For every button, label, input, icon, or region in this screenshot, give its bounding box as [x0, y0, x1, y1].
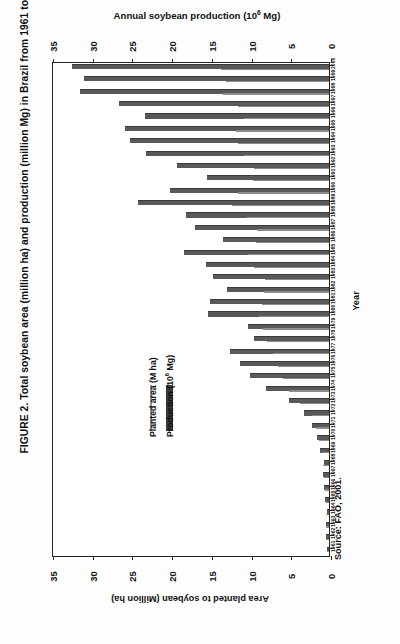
bottom-axis-tick-label: 35 [48, 565, 59, 589]
planted-area-bar [273, 353, 329, 354]
planted-area-bar [254, 168, 329, 169]
year-axis-tick-label: 1991 [330, 169, 336, 180]
planted-area-bar [325, 489, 329, 490]
planted-area-bar [257, 229, 329, 230]
planted-area-bar [300, 403, 329, 404]
bottom-axis-tick [331, 556, 332, 560]
year-axis-title: Year [351, 291, 361, 311]
chart-bar-row [53, 138, 329, 149]
chart-bar-row [53, 175, 329, 186]
planted-area-bar [223, 93, 329, 94]
year-axis-tick-label: 1978 [330, 330, 336, 341]
chart-bar-row [53, 497, 329, 508]
planted-area-bar [236, 130, 329, 131]
top-axis-tick-label: 5 [286, 35, 297, 59]
planted-area-bar [244, 155, 329, 156]
bottom-axis-tick-label: 20 [167, 565, 178, 589]
planted-area-bar [319, 440, 329, 441]
chart-bar-row [53, 485, 329, 496]
year-axis-tick-label: 1961 [330, 540, 336, 551]
year-axis-tick-label: 1999 [330, 70, 336, 81]
year-axis-tick-label: 1997 [330, 95, 336, 106]
planted-area-bar [326, 539, 329, 540]
chart-bar-row [53, 212, 329, 223]
planted-area-bar [316, 427, 330, 428]
top-axis-tick [93, 59, 94, 63]
top-axis-tick-label: 0 [326, 35, 337, 59]
planted-area-bar [323, 465, 329, 466]
year-axis-tick-label: 1977 [330, 342, 336, 353]
planted-area-bar [267, 341, 329, 342]
top-axis-tick-label: 30 [87, 35, 98, 59]
top-axis-tick-label: 35 [48, 35, 59, 59]
year-axis-tick-label: 1995 [330, 120, 336, 131]
bottom-axis-tick-label: 0 [326, 565, 337, 589]
planted-area-bar [264, 291, 329, 292]
chart-bar-row [53, 398, 329, 409]
chart-bar-row [53, 534, 329, 545]
plot-frame: 3535303025252020151510105500 [52, 62, 330, 557]
year-axis-tick-label: 1994 [330, 132, 336, 143]
legend-label-production: Production (106 Mg) [164, 355, 175, 437]
planted-area-bar [238, 143, 329, 144]
top-axis-tick [291, 59, 292, 63]
year-axis-tick-label: 1966 [330, 478, 336, 489]
top-axis-tick-label: 25 [127, 35, 138, 59]
planted-area-bar [312, 415, 329, 416]
top-axis-title: Annual soybean production (106 Mg) [62, 9, 332, 21]
planted-area-bar [221, 69, 329, 70]
planted-area-bar [256, 242, 329, 243]
top-axis-tick [53, 59, 54, 63]
year-axis-tick-label: 1998 [330, 82, 336, 93]
year-axis-tick-label: 1988 [330, 206, 336, 217]
planted-area-bar [263, 328, 329, 329]
planted-area-bar [327, 551, 329, 552]
chart-bar-row [53, 250, 329, 261]
top-axis-title-text: Annual soybean production (106 Mg) [114, 10, 281, 21]
chart-bar-row [53, 163, 329, 174]
chart-bar-row [53, 472, 329, 483]
chart-bar-row [53, 101, 329, 112]
planted-area-bar [324, 477, 329, 478]
chart-bar-row [53, 126, 329, 137]
top-axis-tick-label: 20 [167, 35, 178, 59]
year-axis-tick-label: 1986 [330, 231, 336, 242]
bottom-axis-title: Area planted to soybean (Million ha) [40, 594, 340, 604]
bottom-axis-tick-label: 30 [87, 565, 98, 589]
bottom-axis-tick-label: 10 [246, 565, 257, 589]
planted-area-bar [278, 366, 329, 367]
year-axis-tick-label: 1996 [330, 107, 336, 118]
year-axis-tick-label: 1981 [330, 293, 336, 304]
planted-area-bar [259, 316, 329, 317]
year-axis-tick-label: 1992 [330, 157, 336, 168]
top-axis-tick [172, 59, 173, 63]
top-axis-tick-label: 10 [246, 35, 257, 59]
year-axis-tick-label: 1972 [330, 404, 336, 415]
year-axis-tick-label: 1964 [330, 503, 336, 514]
year-axis-tick-label: 1969 [330, 441, 336, 452]
bottom-axis-tick-label: 5 [286, 565, 297, 589]
year-axis-tick-label: 1974 [330, 379, 336, 390]
chart-bar-row [53, 64, 329, 75]
top-axis-tick [252, 59, 253, 63]
figure-caption: FIGURE 2. Total soybean area (million ha… [19, 14, 30, 454]
chart-bar-row [53, 361, 329, 372]
chart-bar-row [53, 547, 329, 558]
chart-bar-row [53, 89, 329, 100]
chart-bar-row [53, 262, 329, 273]
planted-area-bar [262, 304, 330, 305]
chart-bar-row [53, 324, 329, 335]
top-axis-tick-label: 15 [206, 35, 217, 59]
planted-area-bar [238, 106, 329, 107]
year-axis-tick-label: 1979 [330, 318, 336, 329]
chart-bar-row [53, 188, 329, 199]
chart-bar-row [53, 435, 329, 446]
planted-area-bar [238, 192, 329, 193]
year-axis-tick-label: 1970 [330, 429, 336, 440]
year-axis-tick-label: 1967 [330, 466, 336, 477]
year-axis-tick-label: 1968 [330, 454, 336, 465]
chart-bar-row [53, 200, 329, 211]
planted-area-bar [289, 390, 330, 391]
bottom-axis-tick-label: 15 [206, 565, 217, 589]
chart-bar-row [53, 274, 329, 285]
